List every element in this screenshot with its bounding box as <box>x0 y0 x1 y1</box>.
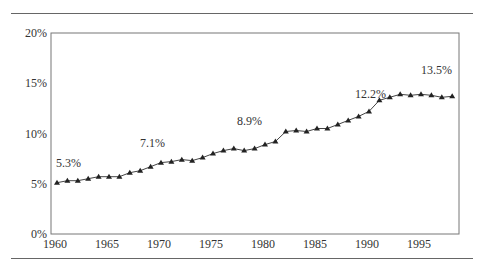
x-axis-ticks: 19601965197019751980198519901995 <box>43 237 431 251</box>
x-tick-label: 1975 <box>199 237 223 251</box>
x-tick-label: 1970 <box>147 237 171 251</box>
plot-frame <box>51 33 459 234</box>
annotations: 5.3%7.1%8.9%12.2%13.5% <box>56 63 452 170</box>
x-tick-label: 1965 <box>95 237 119 251</box>
triangle-marker <box>293 127 299 132</box>
value-annotation: 12.2% <box>355 87 386 101</box>
triangle-marker <box>397 91 403 96</box>
triangle-marker <box>179 157 185 162</box>
y-tick-label: 20% <box>25 26 47 40</box>
x-tick-label: 1980 <box>251 237 275 251</box>
value-annotation: 7.1% <box>140 136 165 150</box>
y-tick-label: 10% <box>25 127 47 141</box>
triangle-marker <box>449 93 455 98</box>
y-tick-label: 5% <box>31 177 47 191</box>
line-chart: 0%5%10%15%20% 19601965197019751980198519… <box>0 0 483 269</box>
bottom-rule <box>11 258 473 259</box>
y-tick-label: 15% <box>25 76 47 90</box>
x-tick-label: 1960 <box>43 237 67 251</box>
value-annotation: 13.5% <box>421 63 452 77</box>
x-tick-label: 1995 <box>407 237 431 251</box>
triangle-marker <box>418 91 424 96</box>
x-tick-label: 1990 <box>355 237 379 251</box>
data-line <box>57 94 452 182</box>
value-annotation: 5.3% <box>56 156 81 170</box>
value-annotation: 8.9% <box>237 114 262 128</box>
triangle-marker <box>231 146 237 151</box>
data-markers <box>54 91 455 184</box>
y-axis-ticks: 0%5%10%15%20% <box>25 26 47 241</box>
x-tick-label: 1985 <box>303 237 327 251</box>
triangle-marker <box>314 125 320 130</box>
